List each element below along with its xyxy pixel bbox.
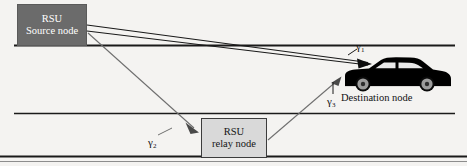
rsu-source-node[interactable]: RSU Source node: [17, 4, 87, 46]
car-icon: [345, 57, 451, 91]
source-node-line-2: Source node: [26, 25, 78, 37]
rsu-relay-node[interactable]: RSU relay node: [201, 118, 267, 158]
source-node-line-1: RSU: [42, 13, 62, 25]
gamma1-label: γ1: [356, 40, 364, 52]
gamma3-subscript: 3: [332, 101, 336, 109]
relay-node-line-2: relay node: [212, 138, 256, 150]
destination-node-label: Destination node: [341, 92, 412, 103]
gamma2-subscript: 2: [153, 142, 157, 150]
gamma1-subscript: 1: [361, 46, 365, 54]
gamma2-label: γ2: [148, 136, 156, 148]
relay-node-line-1: RSU: [224, 126, 244, 138]
gamma3-label: γ3: [327, 95, 335, 107]
rsu-relay-network-diagram: RSU Source node RSU relay node Destinati…: [0, 0, 467, 166]
